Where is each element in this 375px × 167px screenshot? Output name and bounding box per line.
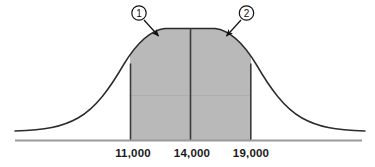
- callout-2-leader-arrow: [227, 20, 242, 36]
- distribution-chart-canvas: 1 2 11,000 14,000 19,000: [0, 0, 375, 167]
- axis-label-11000: 11,000: [115, 147, 151, 159]
- axis-label-14000: 14,000: [174, 147, 210, 159]
- callout-2-label: 2: [244, 8, 250, 19]
- axis-label-19000: 19,000: [233, 147, 269, 159]
- callout-1-label: 1: [136, 8, 142, 19]
- callout-1-group: 1: [132, 6, 159, 36]
- callout-2-group: 2: [227, 6, 254, 36]
- normal-distribution-figure: 1 2 11,000 14,000 19,000: [0, 0, 375, 167]
